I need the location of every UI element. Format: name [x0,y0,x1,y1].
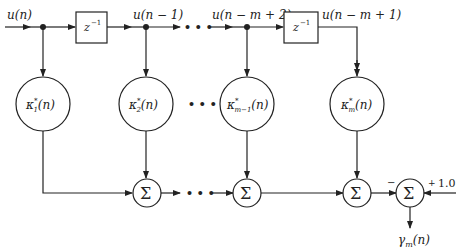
weight-kappa-2: κ*2(n) [119,77,173,131]
summer-final: Σ [396,179,424,207]
svg-text:κ*m(n): κ*m(n) [340,97,372,114]
tap-label-2: u(n − m + 2) [212,8,292,22]
minus-sign: − [387,177,395,188]
tap-label-3: u(n − m + 1) [322,8,402,22]
summer-3: Σ [343,179,371,207]
summer-1: Σ [133,179,161,207]
input-signal: u(n) [5,8,43,27]
svg-text:κ*1(n): κ*1(n) [25,97,55,114]
constant-input: 1.0 [438,177,456,190]
delay-block-2: z −1 [284,12,318,43]
ellipsis-bottom: • • • [186,187,215,200]
tap-label-1: u(n − 1) [133,8,183,22]
summer-2: Σ [233,179,261,207]
weight-kappa-1: κ*1(n) [16,77,70,131]
svg-text:Σ: Σ [403,184,414,203]
diagram-canvas: u(n) z −1 u(n − 1) • • • u(n − m + 2) z … [0,0,458,249]
ellipsis-top: • • • [184,21,213,34]
delay-block-1: z −1 [76,12,107,43]
delay-label: z [292,21,299,34]
weight-kappa-m-minus-1: κ*m−1(n) [220,77,274,131]
plus-sign: + [428,178,436,188]
svg-text:Σ: Σ [350,184,361,203]
svg-text:κ*2(n): κ*2(n) [128,97,158,114]
delay-label: z [83,21,90,34]
delay-exponent: −1 [300,19,310,27]
svg-text:Σ: Σ [140,184,151,203]
input-label: u(n) [7,8,32,22]
delay-exponent: −1 [91,19,101,27]
output-label: γm(n) [398,233,430,249]
weight-kappa-m: κ*m(n) [330,77,384,131]
ellipsis-middle: • • • [188,98,217,111]
svg-text:Σ: Σ [240,184,251,203]
